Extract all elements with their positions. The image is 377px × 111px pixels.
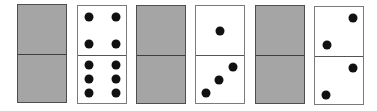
pip-icon <box>216 27 225 36</box>
pip-icon <box>85 75 94 84</box>
domino-6-bottom-half-two <box>315 56 363 104</box>
domino-3-bottom-half <box>137 55 185 103</box>
domino-2-top-half-four <box>78 6 126 55</box>
domino-1-bottom-half <box>18 54 66 102</box>
domino-row <box>0 0 377 111</box>
pip-icon <box>202 89 211 98</box>
pip-icon <box>112 40 121 49</box>
domino-6-top-half-two <box>315 7 363 56</box>
pip-icon <box>85 40 94 49</box>
pip-icon <box>323 41 332 50</box>
pip-icon <box>349 64 358 73</box>
pip-icon <box>229 63 238 72</box>
domino-1-face-down[interactable] <box>17 4 67 103</box>
domino-5-top-half <box>256 6 304 55</box>
domino-4-bottom-half-three <box>196 55 244 103</box>
domino-6-two-two[interactable] <box>314 6 364 105</box>
domino-4-one-three[interactable] <box>195 5 245 104</box>
pip-icon <box>112 89 121 98</box>
pip-icon <box>322 91 331 100</box>
pip-icon <box>349 14 358 23</box>
domino-5-bottom-half <box>256 55 304 103</box>
pip-icon <box>85 61 94 70</box>
domino-4-top-half-one <box>196 6 244 55</box>
pip-icon <box>112 61 121 70</box>
pip-icon <box>112 75 121 84</box>
domino-1-top-half <box>18 5 66 54</box>
domino-2-four-six[interactable] <box>77 5 127 104</box>
domino-2-bottom-half-six <box>78 55 126 103</box>
pip-icon <box>112 13 121 22</box>
domino-5-face-down[interactable] <box>255 5 305 104</box>
domino-3-top-half <box>137 6 185 55</box>
pip-icon <box>85 89 94 98</box>
pip-icon <box>85 13 94 22</box>
pip-icon <box>215 76 224 85</box>
domino-3-face-down[interactable] <box>136 5 186 104</box>
